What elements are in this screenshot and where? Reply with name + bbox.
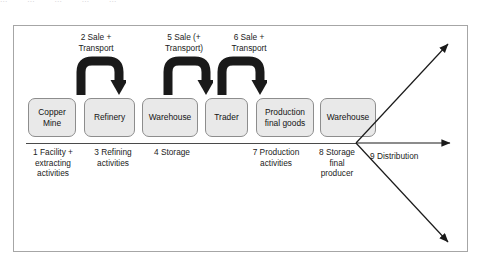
caption-7-production: 7 Production activities bbox=[245, 147, 307, 168]
diagram-canvas: ... ... ... ... ... 2 Sale + Transport 5… bbox=[0, 0, 482, 268]
process-box-warehouse-1[interactable]: Warehouse bbox=[142, 98, 198, 137]
caption-4-storage: 4 Storage bbox=[144, 147, 200, 158]
process-box-trader[interactable]: Trader bbox=[205, 98, 248, 137]
process-box-copper-mine[interactable]: Copper Mine bbox=[28, 98, 76, 137]
caption-3-refining: 3 Refining activities bbox=[85, 147, 141, 168]
hook-arrow-icon-5 bbox=[161, 55, 213, 97]
process-box-refinery[interactable]: Refinery bbox=[84, 98, 135, 137]
distribution-arrow-up bbox=[356, 44, 448, 143]
hook-arrow-icon-6 bbox=[215, 55, 267, 97]
process-baseline bbox=[26, 143, 356, 144]
hook-arrow-icon-2 bbox=[74, 55, 126, 97]
sale-label-5: 5 Sale (+ Transport) bbox=[150, 32, 218, 53]
process-box-production-final-goods[interactable]: Production final goods bbox=[256, 98, 314, 137]
distribution-label: 9 Distribution bbox=[370, 151, 418, 162]
clipped-text-fragment: ... bbox=[82, 0, 90, 4]
distribution-arrow-fan bbox=[340, 25, 482, 255]
sale-label-6: 6 Sale + Transport bbox=[215, 32, 283, 53]
clipped-text-fragment: ... bbox=[0, 0, 8, 4]
clipped-text-fragment: ... bbox=[55, 0, 63, 4]
clipped-text-fragment: ... bbox=[109, 0, 117, 4]
clipped-text-fragment: ... bbox=[27, 0, 35, 4]
sale-label-2: 2 Sale + Transport bbox=[62, 32, 130, 53]
clipped-text-row: ... ... ... ... ... bbox=[0, 0, 482, 5]
caption-1-facility: 1 Facility + extracting activities bbox=[22, 147, 84, 179]
